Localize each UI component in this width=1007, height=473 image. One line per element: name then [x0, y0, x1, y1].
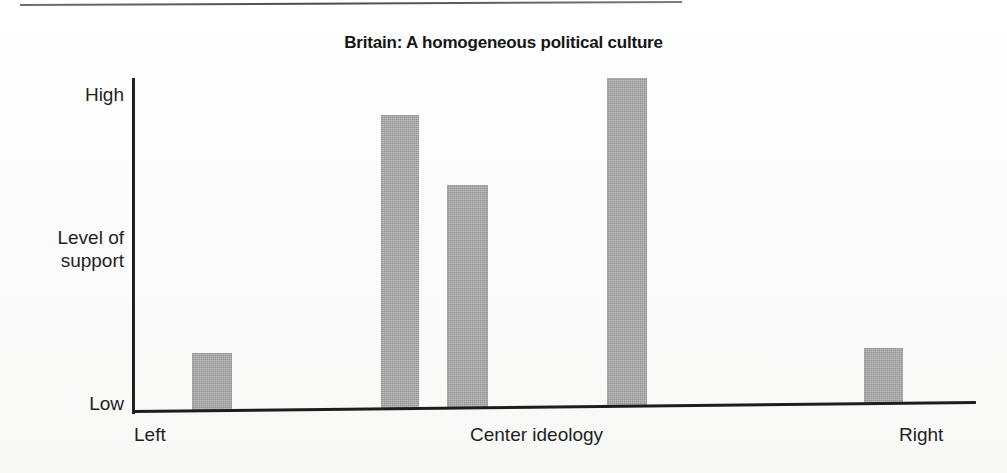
chart-figure: Britain: A homogeneous political culture…: [0, 0, 1007, 473]
bar-center-left: [381, 115, 419, 409]
bar-right: [864, 348, 903, 404]
y-axis-line: [132, 78, 135, 414]
y-axis-label-high: High: [85, 83, 124, 106]
y-axis-label-low: Low: [89, 392, 124, 415]
bar-center-right: [607, 78, 647, 407]
x-axis-label-left: Left: [134, 424, 166, 446]
bar-center: [447, 185, 488, 408]
x-axis-title-center-ideology: Center ideology: [470, 424, 603, 446]
x-axis-label-right: Right: [899, 424, 943, 446]
y-axis-title: Level of support: [57, 226, 124, 272]
bar-left: [192, 353, 232, 411]
